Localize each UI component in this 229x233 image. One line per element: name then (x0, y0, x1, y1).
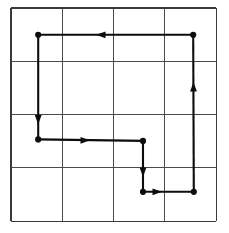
path-vertex-3 (35, 136, 41, 142)
path-vertex-4 (140, 138, 146, 144)
figure-canvas (0, 0, 229, 233)
path-vertex-1 (190, 32, 196, 38)
path-vertex-2 (35, 32, 41, 38)
path-segment-3-right (38, 139, 143, 141)
path-vertex-6 (191, 189, 197, 195)
path-segment-6-up (193, 35, 194, 192)
path-vertex-5 (140, 189, 146, 195)
lattice-path-figure (0, 0, 229, 233)
